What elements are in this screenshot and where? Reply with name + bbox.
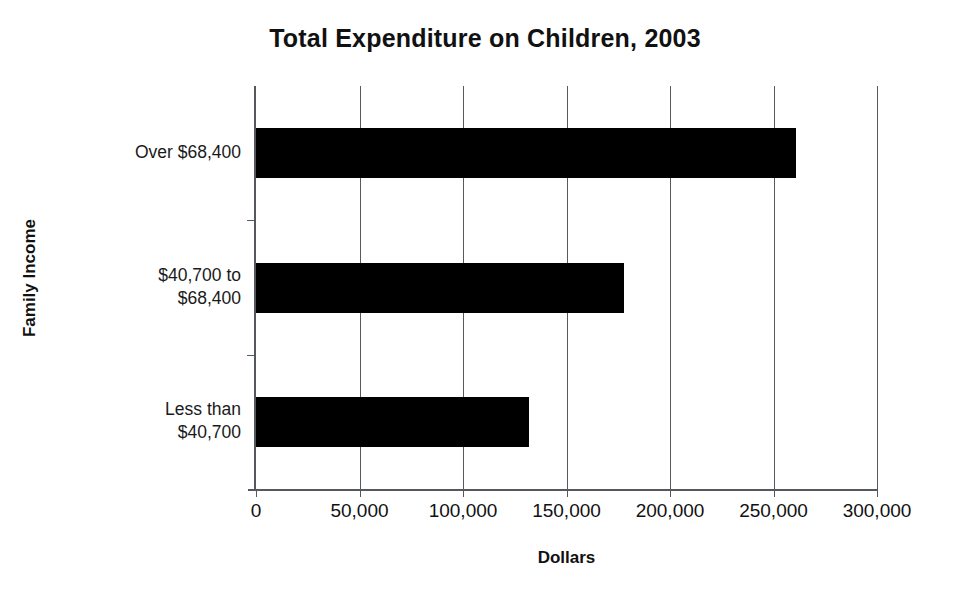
plot-area — [256, 86, 877, 489]
x-axis-tick — [463, 489, 464, 497]
x-axis-tick-label: 300,000 — [797, 500, 957, 522]
y-axis-tick — [247, 220, 256, 221]
bar — [256, 263, 624, 313]
y-axis-tick-label: $40,700 to $68,400 — [0, 264, 241, 310]
chart-title: Total Expenditure on Children, 2003 — [0, 24, 970, 53]
x-axis-line — [248, 489, 877, 491]
bar — [256, 397, 529, 447]
y-axis-tick-label: Less than $40,700 — [0, 398, 241, 444]
chart-figure: Total Expenditure on Children, 2003 Fami… — [0, 0, 970, 595]
x-axis-tick — [877, 489, 878, 497]
x-axis-tick — [360, 489, 361, 497]
bar — [256, 128, 796, 178]
gridline — [877, 86, 878, 489]
x-axis-tick — [256, 489, 257, 497]
x-axis-tick — [774, 489, 775, 497]
x-axis-tick — [670, 489, 671, 497]
x-axis-title: Dollars — [256, 548, 877, 568]
y-axis-tick-label: Over $68,400 — [0, 141, 241, 164]
y-axis-tick — [247, 355, 256, 356]
x-axis-tick — [567, 489, 568, 497]
